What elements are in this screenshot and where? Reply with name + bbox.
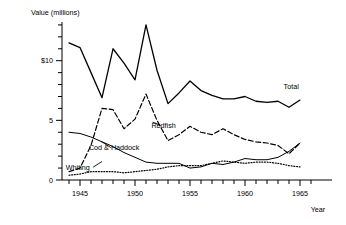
chart-container: Value (millions) Year 05$10 194519501955… <box>0 0 346 225</box>
series-label-whiting: Whiting <box>66 163 90 172</box>
axis-lines <box>62 22 332 180</box>
x-axis-title: Year <box>311 205 326 214</box>
y-axis-tick-label: 0 <box>49 176 53 185</box>
x-axis-tick-labels: 19451950195519601965 <box>72 189 308 198</box>
line-chart: Value (millions) Year 05$10 194519501955… <box>0 0 346 225</box>
y-axis-tick-label: 5 <box>49 116 53 125</box>
x-axis-ticks <box>69 180 311 186</box>
data-series-group <box>69 25 300 175</box>
y-axis-tick-labels: 05$10 <box>41 56 53 184</box>
leader-line-whiting <box>93 162 102 168</box>
series-line-total <box>69 25 300 107</box>
x-axis-tick-label: 1945 <box>72 189 88 198</box>
series-label-total: Total <box>284 82 300 91</box>
y-axis-title: Value (millions) <box>31 8 80 17</box>
y-axis-tick-label: $10 <box>41 56 53 65</box>
series-label-redfish: Redfish <box>151 121 175 130</box>
x-axis-tick-label: 1950 <box>127 189 143 198</box>
x-axis-tick-label: 1955 <box>182 189 198 198</box>
series-label-cod-haddock: Cod & Haddock <box>89 143 140 152</box>
x-axis-tick-label: 1960 <box>237 189 253 198</box>
series-line-whiting <box>69 161 300 175</box>
x-axis-tick-label: 1965 <box>292 189 308 198</box>
y-axis-ticks <box>56 25 62 180</box>
